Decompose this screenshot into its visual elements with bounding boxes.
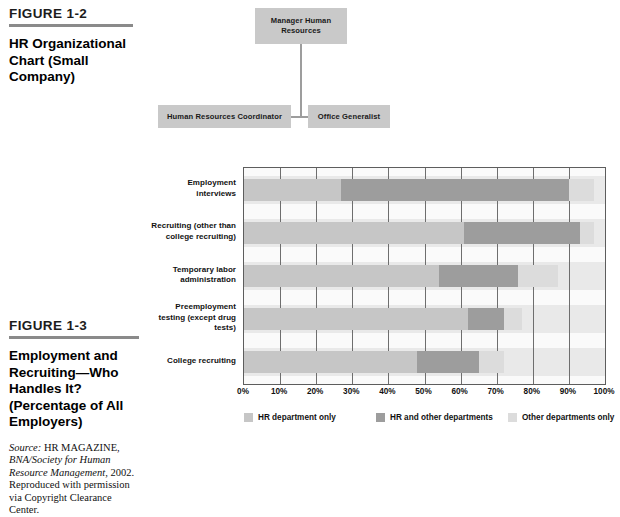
bar-4: [244, 308, 605, 330]
bar-segment: [518, 265, 558, 287]
x-tick-label: 60%: [451, 387, 467, 396]
x-tick-label: 50%: [415, 387, 431, 396]
x-tick-label: 0%: [237, 387, 249, 396]
org-node-manager-human-resources: Manager Human Resources: [255, 8, 347, 44]
bar-segment: [244, 265, 439, 287]
figure-1-3-title: Employment and Recruiting—Who Handles It…: [9, 348, 139, 431]
legend-label: HR department only: [258, 413, 336, 422]
category-label: Employment interviews: [148, 178, 236, 199]
bar-segment: [244, 308, 468, 330]
stacked-bar-chart: Employment interviewsRecruiting (other t…: [148, 161, 612, 439]
legend-item: HR and other departments: [376, 413, 493, 422]
bar-segment: [244, 222, 464, 244]
figure-1-2-header: FIGURE 1-2 HR Organizational Chart (Smal…: [9, 6, 133, 86]
bar-2: [244, 222, 605, 244]
figure-1-3-source: Source: HR MAGAZINE, BNA/Society for Hum…: [9, 442, 139, 517]
bar-segment: [479, 351, 504, 373]
bar-segment: [580, 222, 594, 244]
legend-label: Other departments only: [522, 413, 614, 422]
figure-1-2-rule: [9, 24, 133, 27]
x-tick-label: 90%: [560, 387, 576, 396]
legend-item: Other departments only: [508, 413, 614, 422]
bar-5: [244, 351, 605, 373]
x-tick-label: 10%: [271, 387, 287, 396]
category-axis: Employment interviewsRecruiting (other t…: [148, 167, 236, 383]
figure-1-3-section: FIGURE 1-3 Employment and Recruiting—Who…: [0, 155, 620, 439]
legend-label: HR and other departments: [390, 413, 493, 422]
legend-swatch: [244, 413, 253, 422]
org-connector-horizontal: [291, 116, 309, 118]
category-label: Temporary labor administration: [148, 265, 236, 286]
x-tick-label: 80%: [524, 387, 540, 396]
figure-1-3-header: FIGURE 1-3 Employment and Recruiting—Who…: [9, 318, 139, 517]
x-axis-tick-labels: 0%10%20%30%40%50%60%70%80%90%100%: [243, 387, 604, 401]
chart-legend: HR department onlyHR and other departmen…: [236, 409, 612, 425]
x-tick-label: 70%: [487, 387, 503, 396]
bar-segment: [569, 179, 594, 201]
figure-1-2-section: FIGURE 1-2 HR Organizational Chart (Smal…: [0, 0, 620, 150]
category-label: Recruiting (other than college recruitin…: [148, 221, 236, 242]
x-tick-label: 40%: [379, 387, 395, 396]
figure-1-3-label: FIGURE 1-3: [9, 318, 139, 333]
org-node-office-generalist: Office Generalist: [308, 105, 390, 128]
source-prefix: Source:: [9, 442, 41, 453]
category-label: Preemployment testing (except drug tests…: [148, 302, 236, 334]
figure-1-3-rule: [9, 336, 139, 339]
org-connector-vertical: [300, 44, 302, 117]
bar-segment: [439, 265, 518, 287]
figure-1-2-title: HR Organizational Chart (Small Company): [9, 36, 133, 86]
x-tick-label: 100%: [594, 387, 615, 396]
legend-swatch: [508, 413, 517, 422]
figure-1-2-label: FIGURE 1-2: [9, 6, 133, 21]
bar-3: [244, 265, 605, 287]
x-tick-label: 20%: [307, 387, 323, 396]
bar-segment: [417, 351, 478, 373]
bar-segment: [244, 351, 417, 373]
legend-item: HR department only: [244, 413, 336, 422]
org-node-human-resources-coordinator: Human Resources Coordinator: [158, 105, 291, 128]
bar-segment: [468, 308, 504, 330]
legend-swatch: [376, 413, 385, 422]
bar-1: [244, 179, 605, 201]
bar-segment: [464, 222, 580, 244]
org-chart: Manager Human Resources Human Resources …: [150, 4, 550, 144]
plot-area: [243, 167, 606, 385]
bar-segment: [341, 179, 568, 201]
bar-segment: [504, 308, 522, 330]
bar-segment: [244, 179, 341, 201]
category-label: College recruiting: [148, 356, 236, 367]
x-tick-label: 30%: [343, 387, 359, 396]
